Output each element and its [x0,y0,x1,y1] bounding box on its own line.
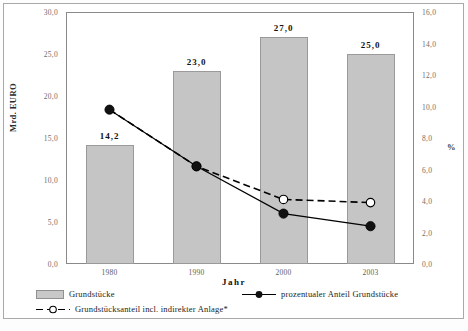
solid-line-filled-circle-icon [242,290,276,299]
legend-item-grundstuecke: Grundstücke [36,288,115,299]
legend-item-grundstuecksanteil: Grundstücksanteil incl. indirekter Anlag… [36,303,228,314]
line-solid [110,110,371,227]
legend-label-0: Grundstücke [69,289,115,299]
data-point-filled-1980 [105,105,114,114]
legend-label-2: Grundstücksanteil incl. indirekter Anlag… [75,304,228,314]
data-point-filled-2000 [279,209,288,218]
bar-swatch-icon [36,290,64,299]
line-dashed [110,110,371,203]
chart-figure: Mrd. EURO % 0,05,010,015,020,025,030,0 0… [0,0,468,331]
data-point-open-2003 [366,198,374,206]
dashed-line-open-circle-icon [36,305,70,314]
data-point-open-2000 [279,195,287,203]
line-series-overlay [0,0,468,331]
data-point-filled-2003 [366,222,375,231]
legend-item-prozentualer-anteil: prozentualer Anteil Grundstücke [242,288,398,299]
data-point-filled-1990 [192,162,201,171]
legend-label-1: prozentualer Anteil Grundstücke [281,289,398,299]
